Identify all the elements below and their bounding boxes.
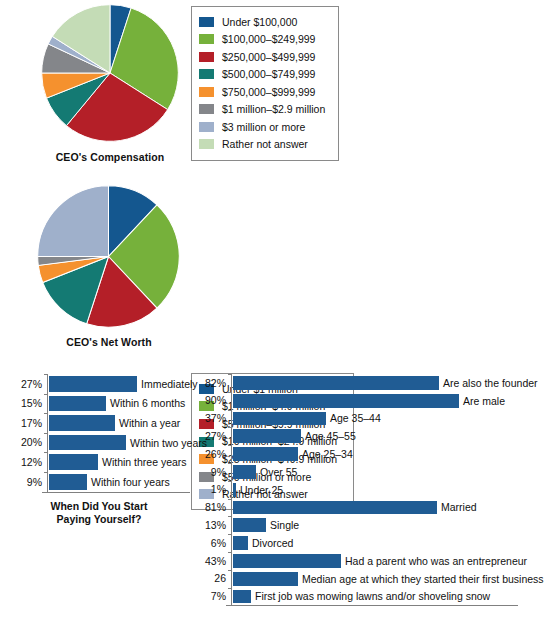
ceo-compensation-pie[interactable]	[41, 4, 179, 142]
bar-fill[interactable]	[49, 376, 137, 392]
bar-fill[interactable]	[49, 474, 87, 490]
bar-row[interactable]: 37%Age 35–44	[196, 410, 518, 428]
legend-row[interactable]: $3 million or more	[199, 118, 328, 136]
bar-track: Immediately	[47, 374, 190, 394]
legend-row[interactable]: $100,000–$249,999	[199, 31, 328, 49]
bar-fill[interactable]	[233, 376, 439, 390]
ceo-networth-pie[interactable]	[37, 185, 180, 328]
ceo-networth-caption: CEO's Net Worth	[0, 336, 294, 348]
bar-row[interactable]: 20%Within two years	[8, 433, 190, 453]
bar-row[interactable]: 9%Within four years	[8, 472, 190, 492]
bar-category-label: Married	[437, 502, 477, 513]
legend-row[interactable]: Under $100,000	[199, 13, 328, 31]
legend-swatch-icon	[199, 87, 214, 97]
bar-row[interactable]: 90%Are male	[196, 392, 518, 410]
bar-value-label: 12%	[8, 457, 47, 468]
bar-track: Over 55	[231, 463, 518, 481]
bar-track: Age 35–44	[231, 410, 518, 428]
bar-category-label: Under 25	[236, 484, 283, 495]
bar-rows-left: 27%Immediately15%Within 6 months17%Withi…	[8, 374, 190, 492]
legend-row[interactable]: Rather not answer	[199, 136, 328, 154]
bar-track: Within 6 months	[47, 394, 190, 414]
bar-fill[interactable]	[233, 501, 437, 515]
bar-value-label: 27%	[8, 379, 47, 390]
bar-track: Are also the founder	[231, 374, 518, 392]
bar-row[interactable]: 9%Over 55	[196, 463, 518, 481]
bar-track: Under 25	[231, 481, 518, 499]
bar-category-label: Are also the founder	[439, 378, 538, 389]
pie-slice[interactable]	[38, 186, 109, 257]
bar-row[interactable]: 15%Within 6 months	[8, 394, 190, 414]
bar-fill[interactable]	[233, 465, 256, 479]
bar-row[interactable]: 17%Within a year	[8, 413, 190, 433]
bar-row[interactable]: 13%Single	[196, 516, 518, 534]
bar-rows-right: 82%Are also the founder90%Are male37%Age…	[196, 374, 518, 605]
ceo-networth-chart: CEO's Net Worth Under $1 million$1 milli…	[0, 180, 350, 360]
bar-value-label: 17%	[8, 418, 47, 429]
bar-row[interactable]: 82%Are also the founder	[196, 374, 518, 392]
bar-fill[interactable]	[233, 447, 298, 461]
bar-row[interactable]: 6%Divorced	[196, 534, 518, 552]
ceo-demographics-bar-chart: 82%Are also the founder90%Are male37%Age…	[196, 374, 518, 623]
legend-row[interactable]: $750,000–$999,999	[199, 83, 328, 101]
bar-track: Are male	[231, 392, 518, 410]
paying-yourself-title: When Did You Start Paying Yourself?	[8, 500, 190, 526]
bar-value-label: 7%	[196, 591, 231, 602]
bar-fill[interactable]	[233, 536, 248, 550]
bar-category-label: Age 45–55	[301, 431, 356, 442]
legend-swatch-icon	[199, 104, 214, 114]
legend-label: $1 million–$2.9 million	[222, 104, 325, 115]
bar-category-label: Immediately	[137, 379, 198, 390]
bar-value-label: 20%	[8, 437, 47, 448]
bar-fill[interactable]	[49, 435, 126, 451]
bar-row[interactable]: 27%Age 45–55	[196, 427, 518, 445]
bar-track: Median age at which they started their f…	[231, 570, 518, 588]
bar-fill[interactable]	[233, 429, 301, 443]
bar-fill[interactable]	[233, 394, 459, 408]
legend-label: $500,000–$749,999	[222, 69, 315, 80]
bar-track: Within four years	[47, 472, 190, 492]
bar-track: Age 25–34	[231, 445, 518, 463]
legend-row[interactable]: $1 million–$2.9 million	[199, 101, 328, 119]
bar-category-label: Within 6 months	[106, 398, 185, 409]
bar-value-label: 26	[196, 573, 231, 584]
legend-row[interactable]: $250,000–$499,999	[199, 48, 328, 66]
bar-fill[interactable]	[233, 590, 251, 604]
bar-fill[interactable]	[49, 454, 98, 470]
bar-value-label: 27%	[196, 431, 231, 442]
bar-category-label: Age 25–34	[298, 449, 353, 460]
bar-fill[interactable]	[233, 554, 341, 568]
legend-label: Under $100,000	[222, 17, 297, 28]
bar-row[interactable]: 43%Had a parent who was an entrepreneur	[196, 552, 518, 570]
bar-value-label: 26%	[196, 449, 231, 460]
bar-fill[interactable]	[233, 412, 326, 426]
bar-row[interactable]: 26%Age 25–34	[196, 445, 518, 463]
bar-track: Age 45–55	[231, 427, 518, 445]
bar-fill[interactable]	[49, 396, 106, 412]
axis-baseline-right	[226, 605, 518, 606]
bar-value-label: 13%	[196, 520, 231, 531]
bar-track: Had a parent who was an entrepreneur	[231, 552, 518, 570]
bar-fill[interactable]	[233, 572, 298, 586]
legend-swatch-icon	[199, 34, 214, 44]
bar-fill[interactable]	[233, 518, 266, 532]
bar-row[interactable]: 81%Married	[196, 499, 518, 517]
bar-category-label: Over 55	[256, 467, 297, 478]
bar-row[interactable]: 27%Immediately	[8, 374, 190, 394]
bar-value-label: 1%	[196, 484, 231, 495]
bar-category-label: Within four years	[87, 477, 170, 488]
legend-swatch-icon	[199, 17, 214, 27]
legend-swatch-icon	[199, 69, 214, 79]
ceo-compensation-chart: CEO's Compensation Under $100,000$100,00…	[0, 0, 350, 175]
bar-row[interactable]: 1%Under 25	[196, 481, 518, 499]
ceo-compensation-legend: Under $100,000$100,000–$249,999$250,000–…	[191, 6, 339, 161]
bar-row[interactable]: 26Median age at which they started their…	[196, 570, 518, 588]
bar-fill[interactable]	[49, 415, 115, 431]
bar-value-label: 37%	[196, 413, 231, 424]
legend-row[interactable]: $500,000–$749,999	[199, 66, 328, 84]
legend-label: $250,000–$499,999	[222, 52, 315, 63]
bar-row[interactable]: 12%Within three years	[8, 452, 190, 472]
legend-label: $100,000–$249,999	[222, 34, 315, 45]
bar-category-label: Are male	[459, 395, 505, 406]
bar-row[interactable]: 7%First job was mowing lawns and/or shov…	[196, 588, 518, 606]
